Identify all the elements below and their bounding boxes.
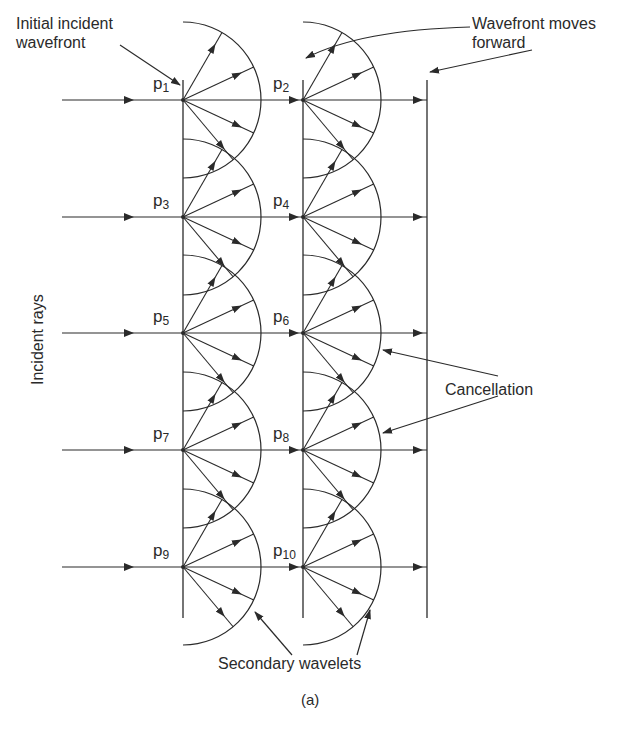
ray-arrowhead bbox=[289, 96, 299, 104]
point-label-p6: p6 bbox=[273, 307, 289, 328]
wavelet-ray bbox=[183, 534, 254, 567]
point-label-p3: p3 bbox=[153, 191, 169, 212]
huygens-wavefront-diagram bbox=[0, 0, 626, 737]
cancellation-label: Cancellation bbox=[445, 380, 533, 399]
ray-arrows bbox=[62, 32, 427, 626]
ray-arrowhead bbox=[124, 446, 134, 454]
ray-arrowhead bbox=[413, 446, 423, 454]
cancellation-pointer-2 bbox=[383, 396, 498, 433]
ray-arrowhead bbox=[289, 446, 299, 454]
wavelet-ray bbox=[183, 100, 254, 133]
wavelet-ray bbox=[183, 217, 233, 277]
point-label-p1: p1 bbox=[153, 74, 169, 95]
wavelet-ray bbox=[183, 217, 254, 250]
wavefront-moves-label-line2: forward bbox=[472, 33, 596, 52]
wavelet-ray bbox=[183, 450, 233, 510]
wavelet-ray bbox=[183, 417, 254, 450]
initial-wavefront-label-line1: Initial incident bbox=[16, 14, 113, 33]
secondary-wavelets-label: Secondary wavelets bbox=[218, 654, 361, 673]
callout-arrows bbox=[120, 27, 532, 655]
wavelet-ray bbox=[303, 417, 374, 450]
ray-arrowhead bbox=[124, 96, 134, 104]
wavelet-ray bbox=[183, 32, 222, 100]
wavelet-ray bbox=[183, 184, 254, 217]
wavelet-ray bbox=[303, 67, 374, 100]
figure-caption: (a) bbox=[301, 690, 319, 709]
wavelet-ray bbox=[303, 217, 374, 250]
ray-arrowhead bbox=[413, 96, 423, 104]
initial-wavefront-pointer bbox=[120, 45, 180, 85]
wavelet-ray bbox=[303, 32, 342, 100]
point-label-p10: p10 bbox=[273, 541, 296, 562]
wavelet-ray bbox=[303, 450, 353, 510]
point-label-p2: p2 bbox=[273, 74, 289, 95]
point-label-p7: p7 bbox=[153, 424, 169, 445]
wavelet-ray bbox=[183, 450, 254, 483]
point-label-p5: p5 bbox=[153, 307, 169, 328]
ray-arrowhead bbox=[124, 213, 134, 221]
ray-arrowhead bbox=[289, 213, 299, 221]
point-label-p9: p9 bbox=[153, 541, 169, 562]
wavelet-ray bbox=[303, 217, 353, 277]
wavelet-ray bbox=[183, 100, 233, 160]
initial-wavefront-label: Initial incident wavefront bbox=[16, 14, 113, 52]
wavelet-ray bbox=[303, 100, 374, 133]
ray-arrowhead bbox=[289, 563, 299, 571]
wavelet-ray bbox=[303, 184, 374, 217]
wavelet-ray bbox=[183, 567, 233, 627]
wavelet-ray bbox=[183, 333, 254, 366]
wavefront-lines bbox=[183, 80, 427, 618]
wavefront-moves-label-line1: Wavefront moves bbox=[472, 14, 596, 33]
wavefront-moves-pointer-1 bbox=[306, 27, 470, 58]
wavelet-ray bbox=[303, 534, 374, 567]
wavelet-ray bbox=[303, 450, 374, 483]
wavelet-ray bbox=[303, 567, 374, 600]
point-label-p8: p8 bbox=[273, 424, 289, 445]
initial-wavefront-label-line2: wavefront bbox=[16, 33, 113, 52]
cancellation-pointer-1 bbox=[383, 350, 498, 376]
wavelet-ray bbox=[303, 333, 374, 366]
wavelet-ray bbox=[183, 300, 254, 333]
ray-arrowhead bbox=[289, 329, 299, 337]
wavelet-ray bbox=[183, 67, 254, 100]
ray-arrowhead bbox=[413, 329, 423, 337]
wavelet-ray bbox=[303, 300, 374, 333]
ray-arrowhead bbox=[124, 329, 134, 337]
wavelet-ray bbox=[303, 333, 353, 393]
wavelet-ray bbox=[183, 333, 233, 393]
wavelet-ray bbox=[303, 567, 353, 627]
wavefront-moves-label: Wavefront moves forward bbox=[472, 14, 596, 52]
ray-arrowhead bbox=[124, 563, 134, 571]
wavelet-ray bbox=[303, 100, 353, 160]
secondary-wavelets-pointer-1 bbox=[255, 612, 292, 655]
wavelet-ray bbox=[183, 567, 254, 600]
ray-arrowhead bbox=[413, 563, 423, 571]
ray-arrowhead bbox=[413, 213, 423, 221]
incident-rays-label: Incident rays bbox=[28, 294, 47, 385]
point-label-p4: p4 bbox=[273, 191, 289, 212]
wavefront-moves-pointer-2 bbox=[430, 50, 532, 72]
